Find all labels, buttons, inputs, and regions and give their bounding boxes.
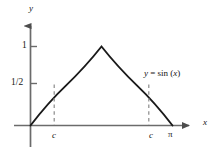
figure-sine-curve: y x 1 1/2 c c π y = sin (x) (0, 0, 217, 152)
x-tick-label-c-left: c (52, 131, 56, 140)
y-axis-label: y (29, 4, 33, 13)
y-tick-label-half: 1/2 (11, 78, 23, 88)
sine-curve (31, 47, 173, 126)
curve-equation-equals: = (148, 68, 158, 78)
curve-equation-label: y = sin (x) (144, 69, 180, 78)
curve-equation-close-paren: ) (177, 68, 180, 78)
plot-canvas (0, 0, 217, 152)
y-tick-label-one: 1 (22, 41, 27, 51)
x-axis-label: x (203, 118, 207, 127)
x-tick-label-c-right: c (149, 131, 153, 140)
x-tick-label-pi: π (168, 130, 173, 139)
curve-equation-fn: sin (158, 68, 169, 78)
